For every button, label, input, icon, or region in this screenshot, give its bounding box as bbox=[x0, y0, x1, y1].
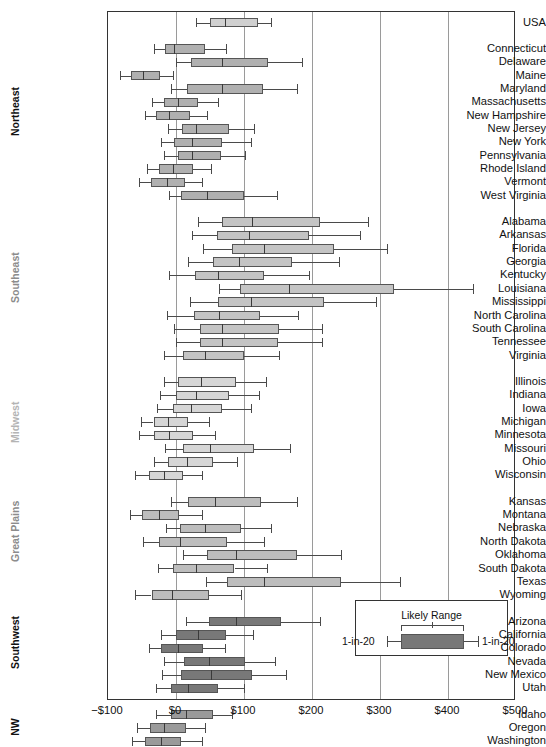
cap-low bbox=[176, 338, 177, 348]
whisker-high bbox=[222, 142, 251, 143]
state-label: Illinois bbox=[443, 375, 546, 387]
whisker-high bbox=[181, 741, 201, 742]
whisker-low bbox=[169, 196, 181, 197]
state-label: Arizona bbox=[443, 615, 546, 627]
state-label: Minnesota bbox=[443, 428, 546, 440]
cap-low bbox=[120, 71, 121, 81]
whisker-low bbox=[168, 129, 182, 130]
iqr-box bbox=[159, 537, 227, 547]
iqr-box bbox=[217, 231, 310, 241]
whisker-high bbox=[193, 169, 211, 170]
iqr-box bbox=[171, 684, 219, 694]
x-tick-label: $100 bbox=[231, 704, 256, 716]
whisker-high bbox=[252, 675, 286, 676]
cap-high bbox=[387, 244, 388, 254]
cap-high bbox=[309, 271, 310, 281]
cap-high bbox=[275, 657, 276, 667]
x-tick-label: −$100 bbox=[91, 704, 122, 716]
cap-low bbox=[192, 231, 193, 241]
whisker-low bbox=[188, 262, 213, 263]
state-label: Michigan bbox=[443, 415, 546, 427]
state-label: North Dakota bbox=[443, 535, 546, 547]
state-label: USA bbox=[443, 16, 546, 28]
whisker-low bbox=[154, 462, 168, 463]
region-label-text: Midwest bbox=[9, 413, 21, 443]
median-line bbox=[236, 617, 237, 627]
median-line bbox=[225, 18, 226, 28]
cap-high bbox=[209, 417, 210, 427]
state-label: Massachusetts bbox=[443, 95, 546, 107]
median-line bbox=[222, 338, 223, 348]
iqr-box bbox=[218, 297, 324, 307]
state-label: Washington bbox=[443, 734, 546, 746]
whisker-low bbox=[164, 662, 184, 663]
cap-high bbox=[400, 577, 401, 587]
cap-high bbox=[267, 564, 268, 574]
whisker-high bbox=[213, 462, 237, 463]
state-label: West Virginia bbox=[443, 189, 546, 201]
whisker-high bbox=[179, 515, 201, 516]
state-label: Wisconsin bbox=[443, 468, 546, 480]
median-line bbox=[209, 657, 210, 667]
median-line bbox=[249, 231, 250, 241]
median-line bbox=[174, 44, 175, 54]
iqr-box bbox=[227, 577, 341, 587]
region-label-southwest: Southwest bbox=[0, 648, 30, 660]
whisker-low bbox=[135, 595, 151, 596]
cap-low bbox=[139, 431, 140, 441]
state-label: New York bbox=[443, 135, 546, 147]
cap-low bbox=[161, 630, 162, 640]
iqr-box bbox=[183, 351, 244, 361]
whisker-low bbox=[176, 62, 191, 63]
legend-label-left: 1-in-20 bbox=[342, 635, 375, 647]
median-line bbox=[207, 191, 208, 201]
whisker-low bbox=[152, 102, 164, 103]
cap-high bbox=[277, 191, 278, 201]
cap-low bbox=[135, 590, 136, 600]
iqr-box bbox=[173, 404, 222, 414]
whisker-low bbox=[190, 302, 219, 303]
whisker-low bbox=[141, 422, 154, 423]
cap-low bbox=[143, 537, 144, 547]
cap-high bbox=[297, 497, 298, 507]
whisker-high bbox=[254, 449, 290, 450]
cap-low bbox=[164, 657, 165, 667]
cap-low bbox=[186, 617, 187, 627]
median-line bbox=[169, 431, 170, 441]
whisker-low bbox=[186, 622, 208, 623]
median-line bbox=[210, 444, 211, 454]
state-label: Colorado bbox=[443, 641, 546, 653]
iqr-box bbox=[161, 644, 203, 654]
median-line bbox=[211, 670, 212, 680]
cap-low bbox=[174, 324, 175, 334]
median-line bbox=[264, 244, 265, 254]
cap-low bbox=[167, 311, 168, 321]
cap-low bbox=[190, 297, 191, 307]
whisker-high bbox=[320, 222, 368, 223]
whisker-high bbox=[244, 356, 279, 357]
whisker-low bbox=[139, 435, 154, 436]
state-label: Connecticut bbox=[443, 42, 546, 54]
iqr-box bbox=[222, 217, 320, 227]
whisker-low bbox=[137, 728, 150, 729]
iqr-box bbox=[200, 338, 278, 348]
region-label-northeast: Northeast bbox=[0, 115, 30, 127]
cap-low bbox=[156, 710, 157, 720]
iqr-box bbox=[207, 550, 297, 560]
iqr-box bbox=[165, 44, 205, 54]
x-tick-label: $200 bbox=[299, 704, 324, 716]
region-label-text: Southeast bbox=[9, 273, 21, 303]
whisker-high bbox=[292, 262, 340, 263]
cap-low bbox=[145, 111, 146, 121]
cap-high bbox=[205, 723, 206, 733]
whisker-low bbox=[154, 49, 165, 50]
whisker-high bbox=[268, 62, 302, 63]
state-label: Nebraska bbox=[443, 521, 546, 533]
x-tick-label: $300 bbox=[367, 704, 392, 716]
state-label: South Carolina bbox=[443, 322, 546, 334]
state-label: Pennsylvania bbox=[443, 149, 546, 161]
state-label: Mississippi bbox=[443, 295, 546, 307]
cap-low bbox=[156, 684, 157, 694]
state-label: Nevada bbox=[443, 655, 546, 667]
state-label: Maine bbox=[443, 69, 546, 81]
